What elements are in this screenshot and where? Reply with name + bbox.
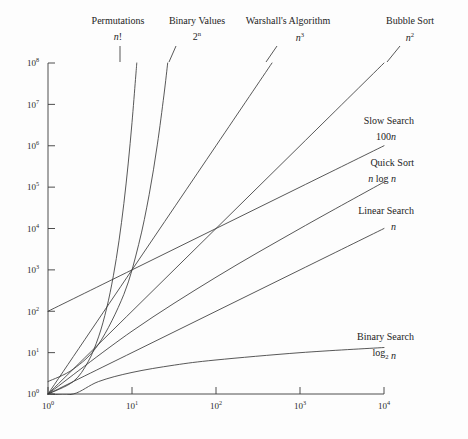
series-annotation-label: Quick Sort (370, 157, 414, 168)
chart-canvas: 1001011021031041051061071081001011021031… (0, 0, 468, 439)
series-annotation-formula: n! (114, 31, 122, 42)
algorithm-complexity-chart: 1001011021031041051061071081001011021031… (0, 0, 468, 439)
series-annotation-label: Slow Search (364, 115, 414, 126)
series-annotation-formula: n log n (368, 173, 396, 184)
series-annotation-label: Linear Search (358, 205, 414, 216)
series-annotation-label: Permutations (92, 15, 145, 26)
series-annotation-label: Bubble Sort (386, 15, 434, 26)
series-annotation-label: Binary Search (357, 331, 414, 342)
series-annotation-formula: n (391, 221, 396, 232)
series-annotation-label: Warshall's Algorithm (246, 15, 331, 26)
series-annotation-formula: 100n (376, 131, 396, 142)
series-annotation-label: Binary Values (169, 15, 225, 26)
